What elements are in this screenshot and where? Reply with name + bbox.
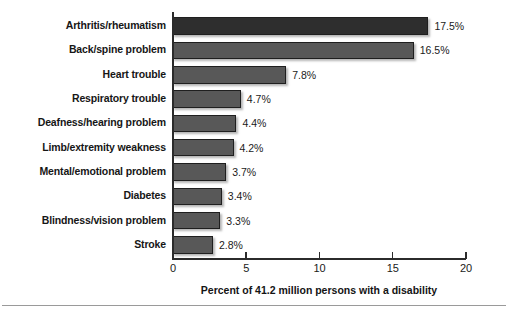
bar-4 bbox=[172, 90, 241, 108]
category-axis-labels: Arthritis/rheumatismBack/spine problemHe… bbox=[0, 14, 166, 257]
bar-row: 3.4% bbox=[172, 188, 465, 206]
x-tick-mark bbox=[319, 252, 321, 259]
bar-6 bbox=[172, 139, 234, 157]
bar-row: 17.5% bbox=[172, 17, 465, 35]
plot-area: 17.5%16.5%7.8%4.7%4.4%4.2%3.7%3.4%3.3%2.… bbox=[172, 14, 465, 257]
bar-value-label: 4.4% bbox=[242, 117, 266, 129]
y-axis-line bbox=[172, 12, 174, 259]
bar-value-label: 2.8% bbox=[219, 239, 243, 251]
bar-value-label: 17.5% bbox=[434, 20, 464, 32]
bar-row: 3.7% bbox=[172, 163, 465, 181]
x-tick-label: 15 bbox=[387, 262, 399, 274]
x-tick-mark bbox=[245, 252, 247, 259]
bar-value-label: 16.5% bbox=[420, 44, 450, 56]
category-label: Mental/emotional problem bbox=[0, 165, 166, 177]
x-tick-label: 5 bbox=[243, 262, 249, 274]
bar-value-label: 3.4% bbox=[228, 190, 252, 202]
x-axis-title: Percent of 41.2 million persons with a d… bbox=[172, 284, 466, 296]
bar-10 bbox=[172, 236, 213, 254]
category-label: Stroke bbox=[0, 238, 166, 250]
bar-value-label: 4.2% bbox=[240, 142, 264, 154]
x-tick-mark bbox=[172, 252, 174, 259]
bar-2 bbox=[172, 42, 414, 60]
category-label: Heart trouble bbox=[0, 68, 166, 80]
bar-row: 4.7% bbox=[172, 90, 465, 108]
bar-row: 3.3% bbox=[172, 212, 465, 230]
category-label: Respiratory trouble bbox=[0, 92, 166, 104]
bar-row: 16.5% bbox=[172, 42, 465, 60]
category-label: Deafness/hearing problem bbox=[0, 116, 166, 128]
bottom-divider bbox=[2, 305, 506, 306]
bar-row: 2.8% bbox=[172, 236, 465, 254]
bar-value-label: 4.7% bbox=[247, 93, 271, 105]
bar-row: 4.2% bbox=[172, 139, 465, 157]
bar-1 bbox=[172, 17, 428, 35]
x-tick-mark bbox=[392, 252, 394, 259]
bar-9 bbox=[172, 212, 220, 230]
bar-row: 4.4% bbox=[172, 115, 465, 133]
category-label: Limb/extremity weakness bbox=[0, 141, 166, 153]
bar-chart-figure: Arthritis/rheumatismBack/spine problemHe… bbox=[0, 0, 508, 313]
bar-value-label: 3.7% bbox=[232, 166, 256, 178]
x-tick-label: 10 bbox=[313, 262, 325, 274]
category-label: Back/spine problem bbox=[0, 43, 166, 55]
x-tick-label: 20 bbox=[460, 262, 472, 274]
bar-row: 7.8% bbox=[172, 66, 465, 84]
x-tick-mark bbox=[465, 252, 467, 259]
category-label: Arthritis/rheumatism bbox=[0, 19, 166, 31]
bar-3 bbox=[172, 66, 286, 84]
bar-8 bbox=[172, 188, 222, 206]
bar-value-label: 7.8% bbox=[292, 69, 316, 81]
bar-5 bbox=[172, 115, 236, 133]
category-label: Blindness/vision problem bbox=[0, 214, 166, 226]
category-label: Diabetes bbox=[0, 189, 166, 201]
bar-7 bbox=[172, 163, 226, 181]
x-tick-label: 0 bbox=[170, 262, 176, 274]
bar-value-label: 3.3% bbox=[226, 215, 250, 227]
